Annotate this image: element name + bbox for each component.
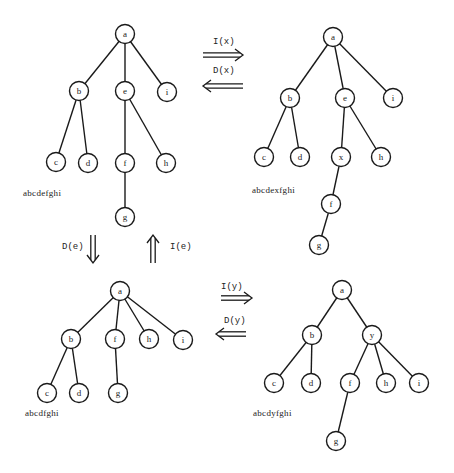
node-label: g	[116, 388, 121, 398]
node-h: h	[140, 330, 159, 349]
op-insert-y: I(y)	[221, 282, 252, 304]
node-label: f	[330, 199, 333, 209]
operation-label: D(x)	[213, 66, 235, 76]
node-i: i	[384, 89, 403, 108]
arrow-down-icon	[87, 255, 99, 263]
node-e: e	[336, 89, 355, 108]
edge-a-b	[290, 37, 333, 98]
node-x: x	[332, 148, 351, 167]
node-label: a	[331, 32, 335, 42]
op-delete-e: D(e)	[62, 235, 99, 263]
arrow-up-icon	[147, 235, 159, 243]
node-label: h	[147, 334, 152, 344]
node-label: b	[69, 334, 74, 344]
node-label: h	[164, 158, 169, 168]
node-label: b	[288, 93, 293, 103]
node-b: b	[281, 89, 300, 108]
node-a: a	[333, 281, 352, 300]
tree-insert-x: abeicdxhfgabcdexfghi	[252, 28, 403, 255]
node-i: i	[158, 83, 177, 102]
node-label: e	[123, 86, 127, 96]
node-f: f	[341, 374, 360, 393]
node-b: b	[70, 82, 89, 101]
node-a: a	[324, 28, 343, 47]
tree-insert-y: abycdfhigabcdyfghi	[253, 281, 429, 451]
sequence-label: abcdyfghi	[253, 408, 292, 418]
sequence-label: abcdefghi	[23, 188, 61, 198]
op-delete-x: D(x)	[203, 66, 243, 92]
node-d: d	[291, 148, 310, 167]
operation-label: I(e)	[170, 242, 192, 252]
node-f: f	[116, 154, 135, 173]
node-label: e	[343, 93, 347, 103]
node-label: f	[349, 378, 352, 388]
node-label: c	[54, 157, 58, 167]
node-label: d	[86, 158, 91, 168]
operation-label: D(e)	[62, 242, 84, 252]
operation-label: I(x)	[213, 37, 235, 47]
node-h: h	[377, 374, 396, 393]
edge-b-c	[56, 91, 79, 162]
node-g: g	[327, 432, 346, 451]
node-g: g	[310, 236, 329, 255]
node-label: c	[272, 378, 276, 388]
operation-label: D(y)	[224, 316, 246, 326]
edge-b-d	[79, 91, 88, 163]
sequence-label: abcdfghi	[25, 408, 59, 418]
node-h: h	[372, 148, 391, 167]
arrow-right-icon	[244, 292, 252, 304]
node-label: d	[77, 388, 82, 398]
node-label: f	[114, 334, 117, 344]
tree-original: abeicdfhgabcdefghi	[23, 25, 177, 227]
node-label: c	[262, 152, 266, 162]
diagram-svg: abeicdfhgabcdefghiabeicdxhfgabcdexfghiab…	[0, 0, 454, 473]
node-c: c	[255, 148, 274, 167]
node-f: f	[322, 195, 341, 214]
node-a: a	[116, 25, 135, 44]
tree-delete-e: abfhicdgabcdfghi	[25, 282, 193, 419]
node-e: e	[116, 82, 135, 101]
node-label: g	[317, 240, 322, 250]
node-d: d	[302, 374, 321, 393]
node-b: b	[62, 330, 81, 349]
node-i: i	[410, 374, 429, 393]
node-g: g	[109, 384, 128, 403]
node-label: h	[379, 152, 384, 162]
node-label: y	[370, 330, 375, 340]
arrow-right-icon	[235, 49, 243, 61]
node-f: f	[106, 330, 125, 349]
arrow-left-icon	[216, 328, 224, 340]
node-label: h	[384, 378, 389, 388]
node-d: d	[70, 384, 89, 403]
node-label: d	[298, 152, 303, 162]
edge-a-b	[79, 34, 125, 91]
node-g: g	[116, 208, 135, 227]
op-insert-x: I(x)	[203, 37, 243, 61]
operation-label: I(y)	[221, 282, 243, 292]
node-d: d	[79, 154, 98, 173]
node-label: b	[310, 330, 315, 340]
node-label: b	[77, 86, 82, 96]
node-label: a	[118, 286, 122, 296]
tree-edit-diagram: abeicdfhgabcdefghiabeicdxhfgabcdexfghiab…	[0, 0, 454, 473]
node-label: d	[309, 378, 314, 388]
node-c: c	[47, 153, 66, 172]
node-y: y	[363, 326, 382, 345]
node-label: f	[124, 158, 127, 168]
sequence-label: abcdexfghi	[252, 185, 295, 195]
node-label: a	[340, 285, 344, 295]
edge-e-h	[345, 98, 381, 157]
node-a: a	[111, 282, 130, 301]
op-delete-y: D(y)	[216, 316, 246, 340]
node-h: h	[157, 154, 176, 173]
arrow-left-icon	[203, 80, 211, 92]
node-i: i	[174, 331, 193, 350]
node-label: g	[334, 436, 339, 446]
node-label: g	[123, 212, 128, 222]
node-b: b	[303, 326, 322, 345]
node-label: c	[45, 388, 49, 398]
node-label: a	[123, 29, 127, 39]
node-c: c	[265, 374, 284, 393]
node-label: x	[339, 152, 344, 162]
op-insert-e: I(e)	[147, 235, 192, 263]
